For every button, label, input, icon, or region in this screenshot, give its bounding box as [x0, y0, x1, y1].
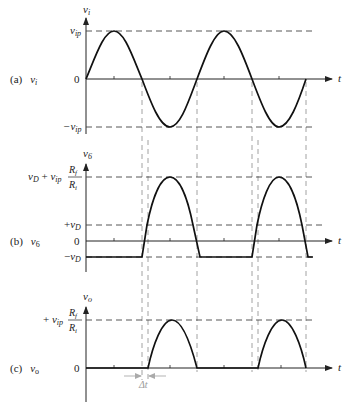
panel-c-zero-label: 0: [74, 362, 80, 374]
panel-a-peak-label: vip: [70, 24, 81, 38]
delta-t-label: Δt: [138, 379, 148, 390]
delta-t-marker: Δt: [124, 376, 166, 390]
panel-b-minus-vd-label: −vD: [64, 250, 81, 264]
panel-b-v6-trace: [86, 177, 313, 257]
panel-b-v6-voltage: (b)v6 0 v6 vD + vip Rf Ri +vD −vD t: [10, 147, 342, 272]
panel-a-input-voltage: (a)vi 0 vi vip −vip t: [10, 3, 342, 134]
panel-b-zero-label: 0: [74, 235, 80, 247]
panel-b-tag: (b)v6: [10, 235, 40, 249]
panel-b-fraction-den: Ri: [68, 179, 77, 192]
panel-b-fraction-num: Rf: [68, 164, 78, 177]
panel-a-neg-peak-label: −vip: [63, 120, 82, 134]
panel-b-axis-label: v6: [83, 147, 92, 161]
panel-a-axis-label: vi: [83, 3, 90, 17]
panel-a-time-label: t: [338, 72, 342, 84]
panel-b-plus-vd-label: +vD: [64, 218, 81, 232]
panel-c-axis-label: vo: [83, 290, 92, 304]
panel-a-tag: (a)vi: [10, 73, 37, 87]
panel-c-peak-label: + vip: [43, 313, 63, 327]
panel-c-fraction-num: Rf: [68, 307, 78, 320]
panel-b-peak-label: vD + vip: [28, 170, 62, 184]
panel-c-fraction-den: Ri: [68, 322, 77, 335]
panel-c-tag: (c)vo: [10, 362, 39, 376]
panel-c-output-voltage: Δt (c)vo 0 vo + vip Rf Ri t: [10, 290, 342, 402]
panel-c-time-label: t: [338, 361, 342, 373]
precision-rectifier-waveform-diagram: (a)vi 0 vi vip −vip t (b)v6 0 v6 vD + vi…: [0, 0, 352, 411]
panel-a-zero-label: 0: [74, 73, 80, 85]
panel-c-vo-trace: [86, 320, 306, 368]
panel-b-time-label: t: [338, 234, 342, 246]
